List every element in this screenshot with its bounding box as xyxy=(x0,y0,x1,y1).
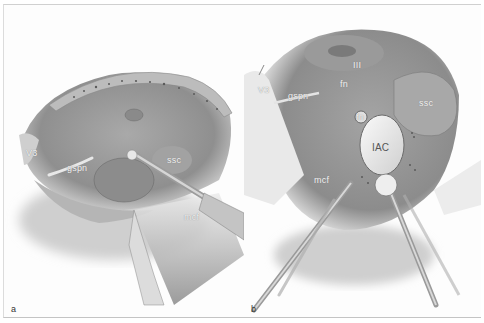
label-fn-upper: fn xyxy=(340,79,348,89)
label-ssc: ssc xyxy=(167,155,181,165)
panel-letter-b: b xyxy=(251,304,256,314)
label-fn: fn xyxy=(356,112,364,122)
label-ssc-b: ssc xyxy=(419,98,433,108)
panel-b-illustration xyxy=(244,5,481,317)
label-mcf: mcf xyxy=(184,212,199,222)
panel-b: V3 gspn III fn fn ssc IAC mcf b xyxy=(244,5,481,317)
figure-frame: V3 gspn ssc mcf a xyxy=(3,4,481,318)
label-v3: V3 xyxy=(26,148,37,158)
panel-a: V3 gspn ssc mcf a xyxy=(4,5,244,317)
label-gspn: gspn xyxy=(67,163,87,173)
label-iii: III xyxy=(353,60,361,70)
label-mcf-b: mcf xyxy=(314,175,329,185)
panel-letter-a: a xyxy=(11,304,16,314)
label-v3-b: V3 xyxy=(258,85,269,95)
label-gspn-b: gspn xyxy=(288,91,308,101)
label-iac: IAC xyxy=(372,142,389,153)
panel-a-illustration xyxy=(4,5,244,317)
